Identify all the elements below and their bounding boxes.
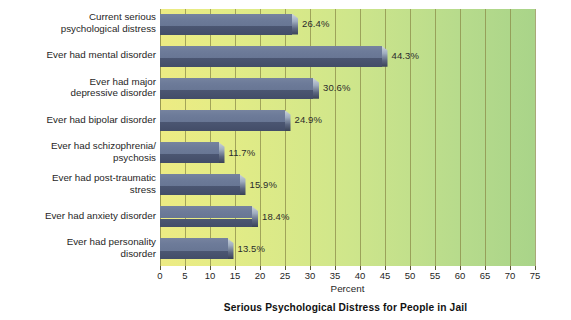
category-label-line: Current serious xyxy=(4,11,156,23)
category-label-line: Ever had post-traumatic xyxy=(4,172,156,184)
tick-label: 60 xyxy=(447,270,473,281)
category-label-line: depressive disorder xyxy=(4,87,156,99)
data-label: 18.4% xyxy=(262,211,289,222)
tick-label: 65 xyxy=(472,270,498,281)
category-label: Current seriouspsychological distress xyxy=(4,11,156,34)
category-label-line: Ever had mental disorder xyxy=(4,49,156,61)
category-label: Ever had personalitydisorder xyxy=(4,236,156,259)
tick-label: 10 xyxy=(197,270,223,281)
tick-label: 15 xyxy=(222,270,248,281)
category-label-line: psychological distress xyxy=(4,23,156,35)
tick-label: 45 xyxy=(372,270,398,281)
data-label: 26.4% xyxy=(302,18,329,29)
data-label: 44.3% xyxy=(392,50,419,61)
tick-label: 20 xyxy=(247,270,273,281)
category-label-line: Ever had schizophrenia/ xyxy=(4,140,156,152)
category-label-line: stress xyxy=(4,184,156,196)
tick-label: 5 xyxy=(172,270,198,281)
tick-label: 70 xyxy=(497,270,523,281)
category-label-line: Ever had bipolar disorder xyxy=(4,114,156,126)
data-label: 11.7% xyxy=(229,147,256,158)
category-label-line: Ever had personality xyxy=(4,236,156,248)
category-label: Ever had post-traumaticstress xyxy=(4,172,156,195)
tick-label: 40 xyxy=(347,270,373,281)
category-label: Ever had schizophrenia/psychosis xyxy=(4,140,156,163)
tick-label: 35 xyxy=(322,270,348,281)
chart-figure: Current seriouspsychological distressEve… xyxy=(0,0,571,320)
tick-label: 50 xyxy=(397,270,423,281)
data-label: 13.5% xyxy=(238,243,265,254)
tick-label: 55 xyxy=(422,270,448,281)
data-label: 30.6% xyxy=(323,82,350,93)
tick-label: 30 xyxy=(297,270,323,281)
category-label-line: psychosis xyxy=(4,152,156,164)
category-label-line: disorder xyxy=(4,248,156,260)
tick-label: 0 xyxy=(147,270,173,281)
category-label: Ever had bipolar disorder xyxy=(4,114,156,126)
category-label-line: Ever had anxiety disorder xyxy=(4,210,156,222)
category-label: Ever had mental disorder xyxy=(4,49,156,61)
category-label: Ever had anxiety disorder xyxy=(4,210,156,222)
x-axis-title: Percent xyxy=(160,283,535,294)
chart-title: Serious Psychological Distress for Peopl… xyxy=(120,302,571,313)
tick-label: 75 xyxy=(522,270,548,281)
data-label: 15.9% xyxy=(250,179,277,190)
data-label: 24.9% xyxy=(295,114,322,125)
category-label: Ever had majordepressive disorder xyxy=(4,76,156,99)
tick-label: 25 xyxy=(272,270,298,281)
category-label-line: Ever had major xyxy=(4,76,156,88)
